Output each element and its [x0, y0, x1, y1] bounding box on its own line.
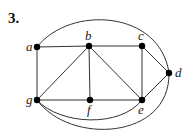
graph-nodes [34, 43, 172, 103]
node-g [34, 97, 40, 103]
straight-edges [37, 46, 169, 100]
node-label-d: d [175, 65, 182, 80]
node-label-g: g [26, 92, 33, 107]
node-b [86, 43, 92, 49]
graph-diagram: abcdefg [0, 0, 189, 139]
node-label-c: c [138, 28, 144, 43]
edge-g-b [37, 46, 89, 100]
node-d [166, 70, 172, 76]
node-a [34, 44, 40, 50]
node-c [139, 43, 145, 49]
node-label-f: f [87, 102, 93, 117]
edge-b-e [89, 46, 142, 100]
edge-g-d [37, 73, 169, 129]
edge-c-d [142, 46, 169, 73]
edge-b-f [89, 46, 90, 100]
node-label-a: a [26, 39, 33, 54]
curved-edges [37, 20, 169, 130]
node-label-b: b [85, 28, 92, 43]
edge-a-b [37, 46, 89, 47]
node-labels: abcdefg [26, 28, 182, 117]
node-label-e: e [138, 102, 144, 117]
